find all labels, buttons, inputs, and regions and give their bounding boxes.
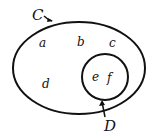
label-d: D bbox=[103, 117, 116, 135]
c-arrowhead-icon bbox=[47, 18, 53, 22]
label-c: C bbox=[32, 6, 44, 24]
element-c: c bbox=[109, 36, 116, 50]
element-a: a bbox=[39, 36, 46, 50]
element-d: d bbox=[42, 77, 50, 91]
venn-diagram: C D a b c d e f bbox=[0, 0, 150, 136]
element-f: f bbox=[106, 71, 114, 85]
element-b: b bbox=[77, 35, 85, 49]
set-d-circle bbox=[82, 54, 128, 100]
element-e: e bbox=[92, 70, 99, 84]
